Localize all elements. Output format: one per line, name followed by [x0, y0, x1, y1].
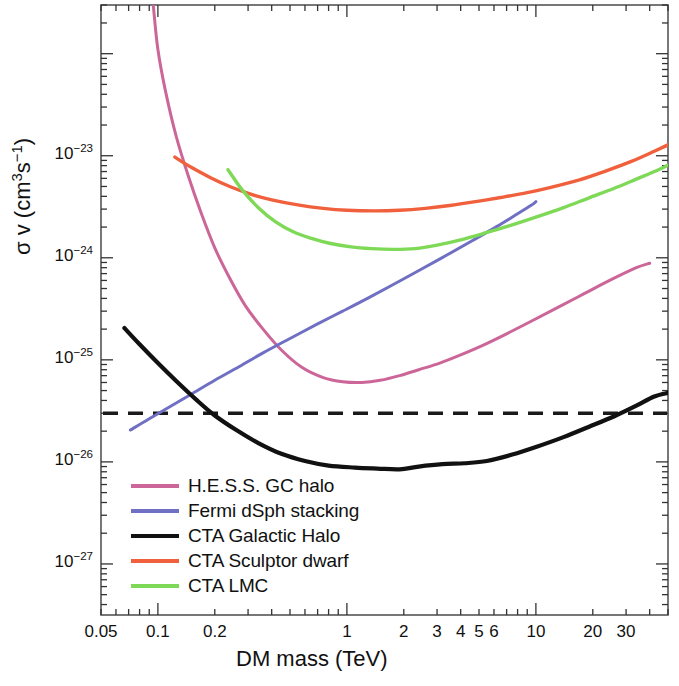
legend-label: Fermi dSph stacking: [188, 500, 359, 522]
legend-swatch-line: [131, 584, 179, 588]
legend-label: CTA Sculptor dwarf: [188, 550, 348, 572]
legend-label: H.E.S.S. GC halo: [188, 475, 334, 497]
y-tick-label: 10−25: [54, 348, 93, 368]
legend: H.E.S.S. GC haloFermi dSph stackingCTA G…: [131, 473, 359, 598]
y-tick-label: 10−27: [54, 552, 93, 572]
x-tick-label: 0.05: [71, 622, 131, 642]
series-line-0: [153, 5, 649, 383]
legend-swatch-line: [131, 484, 179, 488]
legend-item: Fermi dSph stacking: [131, 498, 359, 523]
y-tick-label: 10−26: [54, 450, 93, 470]
y-tick-label: 10−24: [54, 246, 93, 266]
x-tick-label: 30: [596, 622, 656, 642]
legend-label: CTA LMC: [188, 575, 268, 597]
x-tick-label: 10: [506, 622, 566, 642]
x-tick-label: 0.1: [128, 622, 188, 642]
legend-swatch-line: [131, 534, 179, 538]
y-axis-label-text: σ v (cm3s−1): [10, 138, 35, 255]
y-tick-label: 10−23: [54, 144, 93, 164]
y-axis-label: σ v (cm3s−1): [10, 138, 36, 255]
series-line-2: [124, 328, 668, 469]
x-tick-label: 1: [317, 622, 377, 642]
x-axis-label: DM mass (TeV): [236, 646, 388, 672]
legend-swatch-line: [131, 509, 179, 513]
legend-item: CTA Sculptor dwarf: [131, 548, 359, 573]
legend-item: CTA LMC: [131, 573, 359, 598]
legend-item: H.E.S.S. GC halo: [131, 473, 359, 498]
legend-swatch-line: [131, 559, 179, 563]
x-tick-label: 0.2: [185, 622, 245, 642]
chart-figure: σ v (cm3s−1) DM mass (TeV) 10−2310−2410−…: [0, 0, 679, 686]
legend-item: CTA Galactic Halo: [131, 523, 359, 548]
legend-label: CTA Galactic Halo: [188, 525, 340, 547]
